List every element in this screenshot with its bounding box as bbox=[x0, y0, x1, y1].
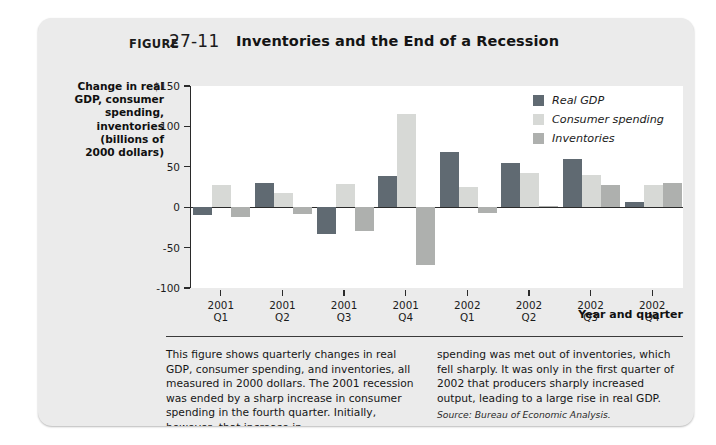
x-axis-tick-label-line: 2001 bbox=[252, 299, 312, 311]
x-axis-tick-label: 2001Q3 bbox=[314, 299, 374, 324]
caption-right-text: spending was met out of inventories, whi… bbox=[437, 348, 674, 405]
x-axis-tick-label: 2001Q2 bbox=[252, 299, 312, 324]
y-axis-tick bbox=[184, 247, 190, 248]
legend-swatch-icon bbox=[533, 95, 544, 106]
y-axis-labels: $150100500-50-100 bbox=[116, 62, 180, 328]
figure-header: Figure 27-11 Inventories and the End of … bbox=[38, 26, 694, 56]
y-axis-line bbox=[190, 86, 191, 288]
x-axis-tick bbox=[405, 290, 406, 296]
x-axis-title: Year and quarter bbox=[578, 308, 683, 321]
legend-item: Real GDP bbox=[533, 92, 693, 109]
bar-consumer bbox=[459, 187, 478, 207]
legend-label: Real GDP bbox=[552, 94, 604, 107]
bar-gdp bbox=[193, 207, 212, 215]
legend-item: Consumer spending bbox=[533, 111, 693, 128]
bar-consumer bbox=[520, 173, 539, 207]
caption-source: Source: Bureau of Economic Analysis. bbox=[437, 408, 686, 423]
bar-gdp bbox=[563, 159, 582, 207]
x-axis-tick-label-line: Q1 bbox=[437, 311, 497, 323]
y-axis-tick-label: $150 bbox=[118, 80, 180, 92]
x-axis-tick-label: 2001Q1 bbox=[191, 299, 251, 324]
bar-inventory bbox=[478, 207, 497, 213]
bar-consumer bbox=[644, 185, 663, 208]
legend-item: Inventories bbox=[533, 130, 693, 147]
bar-inventory bbox=[416, 207, 435, 265]
y-axis-tick-label: -50 bbox=[118, 242, 180, 254]
figure-title: Inventories and the End of a Recession bbox=[236, 33, 559, 49]
x-axis-tick-label-line: Q3 bbox=[314, 311, 374, 323]
y-axis-tick-label: -100 bbox=[118, 282, 180, 294]
x-axis-tick bbox=[343, 290, 344, 296]
bar-consumer bbox=[397, 114, 416, 207]
bar-inventory bbox=[231, 207, 250, 217]
bar-gdp bbox=[440, 152, 459, 207]
x-axis-tick-label-line: 2002 bbox=[437, 299, 497, 311]
legend-label: Consumer spending bbox=[552, 113, 664, 126]
x-axis-tick-label-line: 2001 bbox=[191, 299, 251, 311]
y-axis-tick-label: 50 bbox=[118, 161, 180, 173]
bar-inventory bbox=[601, 185, 620, 208]
caption-divider bbox=[166, 336, 683, 337]
bar-inventory bbox=[355, 207, 374, 231]
bar-inventory bbox=[539, 206, 558, 208]
y-axis-tick bbox=[184, 166, 190, 167]
x-axis-tick-label-line: Q4 bbox=[376, 311, 436, 323]
y-axis-tick bbox=[184, 85, 190, 86]
x-axis-tick bbox=[220, 290, 221, 296]
x-axis-tick-label-line: 2002 bbox=[499, 299, 559, 311]
y-axis-tick-label: 0 bbox=[118, 201, 180, 213]
bar-consumer bbox=[582, 175, 601, 207]
x-axis-tick bbox=[528, 290, 529, 296]
x-axis-tick-label-line: 2001 bbox=[314, 299, 374, 311]
x-axis-tick-label: 2002Q1 bbox=[437, 299, 497, 324]
figure-number: 27-11 bbox=[169, 31, 219, 51]
bar-gdp bbox=[255, 183, 274, 207]
figure-panel: Figure 27-11 Inventories and the End of … bbox=[38, 18, 694, 426]
x-axis-tick bbox=[590, 290, 591, 296]
chart-legend: Real GDPConsumer spendingInventories bbox=[533, 92, 693, 149]
caption-column-right: spending was met out of inventories, whi… bbox=[437, 348, 686, 426]
y-axis-tick bbox=[184, 207, 190, 208]
bar-gdp bbox=[625, 202, 644, 208]
x-axis-tick bbox=[652, 290, 653, 296]
bar-gdp bbox=[378, 176, 397, 207]
zero-baseline bbox=[190, 207, 683, 208]
bar-gdp bbox=[317, 207, 336, 234]
caption-column-left: This figure shows quarterly changes in r… bbox=[166, 348, 415, 426]
x-axis-tick-label: 2002Q2 bbox=[499, 299, 559, 324]
legend-label: Inventories bbox=[552, 132, 615, 145]
bar-inventory bbox=[663, 183, 682, 207]
figure-caption: This figure shows quarterly changes in r… bbox=[166, 348, 686, 426]
chart-region: Change in realGDP, consumerspending,inve… bbox=[38, 62, 694, 328]
x-axis-tick-label: 2001Q4 bbox=[376, 299, 436, 324]
legend-swatch-icon bbox=[533, 133, 544, 144]
y-axis-tick bbox=[184, 126, 190, 127]
x-axis-tick-label-line: Q2 bbox=[499, 311, 559, 323]
x-axis-tick-label-line: Q2 bbox=[252, 311, 312, 323]
bar-consumer bbox=[274, 193, 293, 207]
bar-gdp bbox=[501, 163, 520, 207]
legend-swatch-icon bbox=[533, 114, 544, 125]
bar-inventory bbox=[293, 207, 312, 213]
bar-consumer bbox=[212, 185, 231, 208]
x-axis-tick bbox=[467, 290, 468, 296]
x-axis-tick-label-line: Q1 bbox=[191, 311, 251, 323]
y-axis-tick-label: 100 bbox=[118, 120, 180, 132]
y-axis-tick bbox=[184, 287, 190, 288]
x-axis-tick bbox=[282, 290, 283, 296]
x-axis-tick-label-line: 2001 bbox=[376, 299, 436, 311]
bar-consumer bbox=[336, 184, 355, 207]
